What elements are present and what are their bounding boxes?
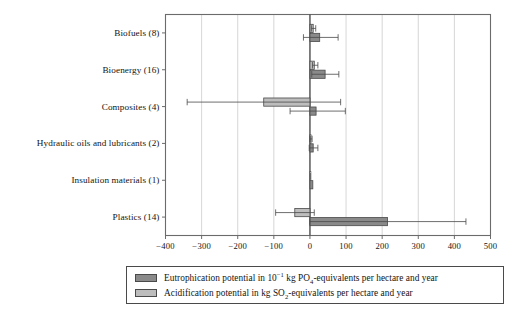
legend-label: Eutrophication potential in 10−1 kg PO4-… [164,273,438,283]
y-axis-label: Biofuels (8) [114,28,159,38]
x-axis-tick-label: −400 [156,241,175,251]
x-axis-tick-label: −100 [265,241,284,251]
legend-swatch [135,289,157,297]
chart-legend: Eutrophication potential in 10−1 kg PO4-… [126,266,504,304]
legend-label: Acidification potential in kg SO2-equiva… [164,288,413,298]
y-axis-label: Composites (4) [102,102,160,112]
x-axis-tick-label: −300 [192,241,211,251]
x-axis-tick-label: 0 [308,241,313,251]
x-axis-tick-label: 500 [484,241,498,251]
x-axis-tick-label: 100 [339,241,353,251]
x-axis-tick-label: −200 [228,241,247,251]
y-axis-label: Hydraulic oils and lubricants (2) [37,138,160,148]
legend-item: Eutrophication potential in 10−1 kg PO4-… [127,270,503,285]
y-axis-label: Bioenergy (16) [102,65,159,75]
bar-eutrophication [310,181,313,189]
y-axis-label: Plastics (14) [113,212,160,222]
bar-acidification [310,172,311,180]
legend-swatch [135,274,157,282]
legend-item: Acidification potential in kg SO2-equiva… [127,285,503,300]
y-axis-label: Insulation materials (1) [71,175,159,185]
x-axis-tick-label: 300 [412,241,426,251]
x-axis-tick-label: 200 [375,241,389,251]
plot-frame [166,15,491,236]
x-axis-tick-label: 400 [448,241,462,251]
chart-figure: Biofuels (8)Bioenergy (16)Composites (4)… [0,0,508,319]
